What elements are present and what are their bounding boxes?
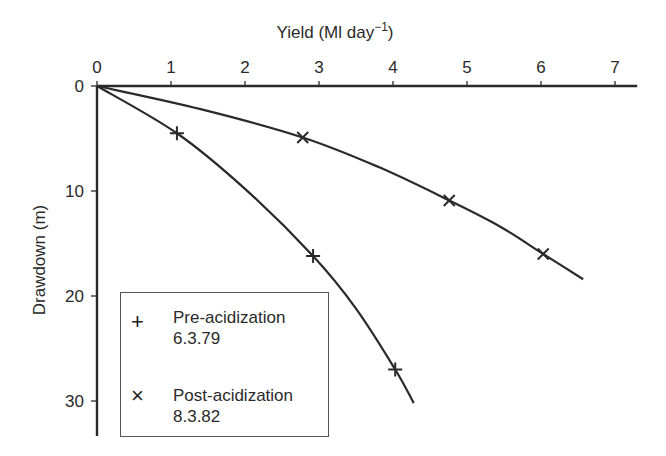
- plus-marker-icon: +: [131, 311, 144, 333]
- x-tick-label: 7: [610, 58, 619, 77]
- y-tick-label: 10: [65, 182, 84, 201]
- x-tick-label: 2: [240, 58, 249, 77]
- x-tick-label: 3: [314, 58, 323, 77]
- plus-marker-icon: [170, 126, 184, 140]
- y-tick-label: 0: [75, 77, 84, 96]
- x-axis-title: Yield (Ml day−1): [277, 20, 394, 42]
- cross-marker-icon: [538, 249, 549, 260]
- x-tick-label: 1: [166, 58, 175, 77]
- legend-label-pre: Pre-acidization: [173, 307, 285, 328]
- cross-marker-icon: [297, 132, 308, 143]
- x-tick-label: 4: [388, 58, 397, 77]
- plus-marker-icon: [388, 363, 402, 377]
- drawdown-yield-chart: 012345670102030Yield (Ml day−1)Drawdown …: [0, 0, 666, 456]
- cross-marker-icon: [444, 195, 455, 206]
- y-tick-label: 30: [65, 392, 84, 411]
- curve-post-acidization: [97, 86, 583, 279]
- y-tick-label: 20: [65, 287, 84, 306]
- legend-date-post: 8.3.82: [173, 406, 220, 427]
- cross-marker-icon: ×: [131, 385, 144, 407]
- legend: + Pre-acidization 6.3.79 × Post-acidizat…: [120, 292, 329, 437]
- legend-date-pre: 6.3.79: [173, 328, 220, 349]
- x-tick-label: 6: [536, 58, 545, 77]
- y-axis-title: Drawdown (m): [30, 205, 49, 316]
- x-tick-label: 5: [462, 58, 471, 77]
- legend-label-post: Post-acidization: [173, 385, 293, 406]
- x-tick-label: 0: [92, 58, 101, 77]
